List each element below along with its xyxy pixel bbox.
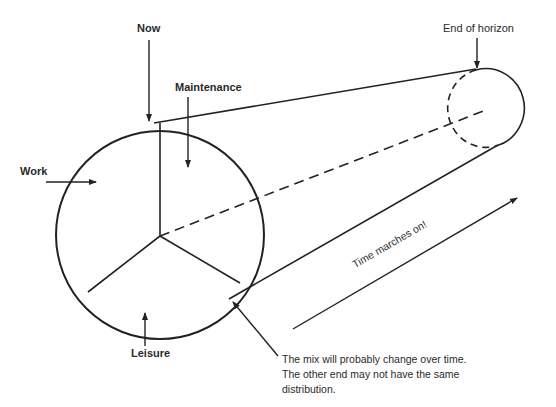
now-label: Now	[137, 22, 160, 34]
cylinder-top-line	[154, 69, 476, 123]
note-line-3: distribution.	[282, 382, 552, 397]
leisure-label: Leisure	[131, 347, 170, 359]
horizon-circle-dashed	[448, 70, 496, 147]
time-arrow-line	[293, 198, 517, 329]
note-arrow	[233, 302, 278, 356]
work-label: Work	[20, 165, 47, 177]
maintenance-label: Maintenance	[175, 81, 242, 93]
horizon-cylinder-diagram	[0, 0, 556, 407]
cylinder-axis-dashed	[160, 110, 486, 236]
note-line-1: The mix will probably change over time.	[282, 352, 552, 367]
pie-divider-right	[160, 236, 240, 283]
horizon-circle-solid	[476, 69, 524, 146]
note-line-2: The other end may not have the same	[282, 367, 552, 382]
distribution-note: The mix will probably change over time. …	[282, 352, 552, 397]
cylinder-bottom-line	[229, 145, 498, 299]
end-of-horizon-label: End of horizon	[443, 22, 514, 34]
pie-divider-left	[88, 236, 160, 292]
